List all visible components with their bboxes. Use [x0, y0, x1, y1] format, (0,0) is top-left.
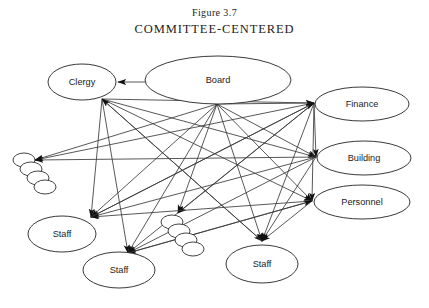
- stack-middle: [161, 215, 204, 256]
- stacked-ellipse: [182, 242, 204, 256]
- node-staff3[interactable]: Staff: [226, 245, 298, 283]
- node-layer: ClergyBoardFinanceBuildingPersonnelStaff…: [28, 56, 411, 288]
- node-label-staff3: Staff: [253, 259, 272, 269]
- stack-left: [13, 153, 56, 194]
- edge-board_bottom-to-personnel_left: [217, 104, 312, 201]
- node-personnel[interactable]: Personnel: [314, 185, 410, 219]
- edge-finance_left-to-building_left: [314, 103, 316, 157]
- node-clergy[interactable]: Clergy: [48, 64, 116, 100]
- node-building[interactable]: Building: [317, 141, 411, 175]
- node-staff1[interactable]: Staff: [28, 216, 96, 252]
- node-label-personnel: Personnel: [341, 197, 382, 207]
- edge-board_bottom-to-stack_left_tip: [35, 104, 217, 160]
- node-label-building: Building: [348, 153, 381, 163]
- node-staff2[interactable]: Staff: [83, 252, 155, 288]
- node-label-board: Board: [206, 75, 231, 85]
- node-board[interactable]: Board: [145, 56, 291, 104]
- stacked-ellipse: [34, 180, 56, 194]
- edge-staff1_top-to-finance_left: [91, 103, 314, 217]
- committee-network-diagram: ClergyBoardFinanceBuildingPersonnelStaff…: [0, 0, 429, 308]
- edge-finance_left-to-personnel_left: [312, 103, 314, 201]
- edge-finance_left-to-stack_left_tip: [35, 103, 314, 160]
- edge-building_left-to-stack_left_tip: [35, 157, 316, 160]
- edge-staff2_top-to-personnel_left: [128, 201, 312, 253]
- node-label-finance: Finance: [346, 99, 379, 109]
- node-label-staff2: Staff: [110, 265, 129, 275]
- edge-clergy_bottom-to-staff2_top: [102, 99, 128, 253]
- figure-page: Figure 3.7 COMMITTEE-CENTERED ClergyBoar…: [0, 0, 429, 308]
- node-label-staff1: Staff: [53, 229, 72, 239]
- node-label-clergy: Clergy: [69, 77, 96, 87]
- edge-clergy_bottom-to-staff1_top: [91, 99, 102, 217]
- node-finance[interactable]: Finance: [315, 87, 409, 121]
